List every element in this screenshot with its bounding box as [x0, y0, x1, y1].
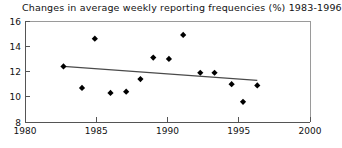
y-axis-tick-labels: 16 14 12 10 8 — [10, 17, 22, 128]
data-point — [240, 99, 246, 105]
data-point — [60, 63, 66, 69]
data-point — [150, 55, 156, 61]
x-tick-label-1985: 1985 — [85, 126, 108, 136]
plot-frame-border — [25, 21, 310, 122]
data-point — [92, 36, 98, 42]
y-tick-label-16: 16 — [10, 17, 22, 27]
x-tick-label-1995: 1995 — [227, 126, 250, 136]
y-tick-label-14: 14 — [10, 42, 22, 52]
plot-frame — [25, 21, 310, 122]
data-point — [123, 89, 129, 95]
data-point — [166, 56, 172, 62]
data-point — [79, 85, 85, 91]
x-tick-label-1980: 1980 — [14, 126, 37, 136]
data-point — [229, 81, 235, 87]
data-point — [197, 70, 203, 76]
y-axis-ticks — [25, 21, 30, 122]
data-point — [211, 70, 217, 76]
y-tick-label-10: 10 — [10, 92, 22, 102]
y-tick-label-12: 12 — [10, 67, 21, 77]
x-axis-ticks — [25, 117, 310, 122]
x-axis-tick-labels: 1980 1985 1990 1995 2000 — [14, 126, 322, 136]
data-point — [107, 90, 113, 96]
trend-line — [63, 66, 257, 80]
data-point — [137, 76, 143, 82]
data-point — [254, 82, 260, 88]
x-tick-label-2000: 2000 — [299, 126, 322, 136]
data-point — [180, 32, 186, 38]
x-tick-label-1990: 1990 — [156, 126, 179, 136]
